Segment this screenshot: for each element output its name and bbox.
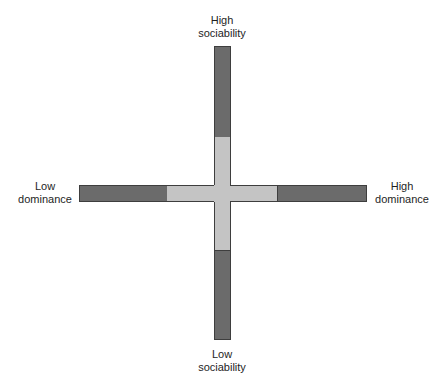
low-sociability-label: Low sociability xyxy=(182,348,262,374)
horizontal-center-bar-left xyxy=(167,185,215,202)
label-line: dominance xyxy=(372,193,432,206)
horizontal-center-bar-right xyxy=(230,185,278,202)
high-dominance-bar xyxy=(277,185,367,202)
low-sociability-bar xyxy=(214,250,231,340)
label-line: dominance xyxy=(15,193,75,206)
high-dominance-label: High dominance xyxy=(372,180,432,206)
low-dominance-bar xyxy=(79,185,168,202)
label-line: sociability xyxy=(182,27,262,40)
label-line: Low xyxy=(15,180,75,193)
label-line: sociability xyxy=(182,361,262,374)
high-sociability-label: High sociability xyxy=(182,14,262,40)
center-intersection xyxy=(214,185,231,202)
high-sociability-bar xyxy=(214,46,231,138)
label-line: High xyxy=(372,180,432,193)
label-line: High xyxy=(182,14,262,27)
low-dominance-label: Low dominance xyxy=(15,180,75,206)
label-line: Low xyxy=(182,348,262,361)
